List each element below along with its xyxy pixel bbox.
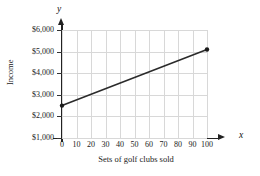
y-tick-label: $4,000 [20,69,54,77]
x-axis-title: Sets of golf clubs sold [53,155,219,164]
data-point-marker [60,103,64,107]
y-axis-letter: y [57,5,61,15]
plot-area [62,30,207,138]
chart-screenshot: y x Income Sets of golf clubs sold $1,00… [0,0,260,176]
y-tick-label: $3,000 [20,91,54,99]
data-line [62,49,207,105]
x-axis-letter: x [239,131,243,141]
gridline-vertical [207,30,208,138]
y-tick-label: $2,000 [20,112,54,120]
y-tick-label: $6,000 [20,26,54,34]
y-tick-label: $5,000 [20,48,54,56]
x-axis-arrowhead-icon [218,134,225,140]
y-axis-title: Income [6,40,15,104]
y-axis-arrowhead-icon [58,18,64,25]
x-tick-label: 100 [196,141,218,149]
gridline-horizontal [62,138,207,139]
data-point-marker [205,47,209,51]
y-tick-label: $1,000 [20,134,54,142]
data-series-layer [62,30,207,138]
